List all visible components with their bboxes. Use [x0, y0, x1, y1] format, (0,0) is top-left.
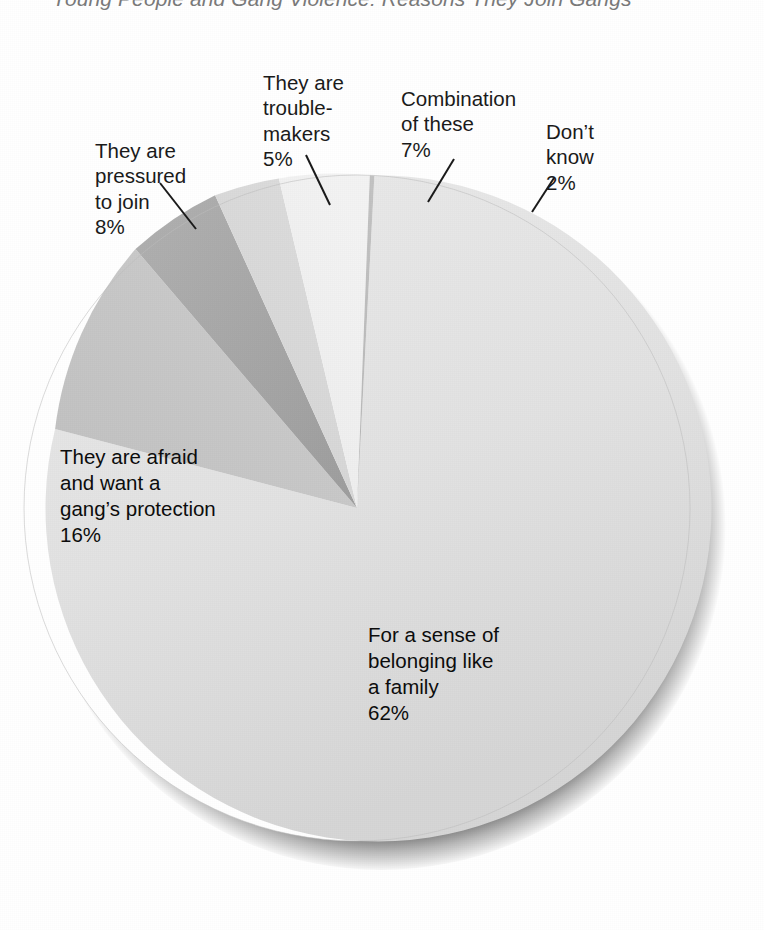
slice-label-combination-percent: 7%: [401, 137, 516, 163]
slice-label-pressured-percent: 8%: [95, 214, 186, 240]
slice-label-afraid-percent: 16%: [60, 523, 101, 546]
pie-chart-page: Young People and Gang Violence: Reasons …: [0, 0, 764, 930]
slice-label-dontknow-percent: 2%: [546, 170, 594, 196]
slice-label-belonging-text: For a sense of belonging like a family: [368, 623, 499, 698]
slice-label-troublemakers: They are trouble- makers 5%: [263, 44, 344, 197]
slice-label-afraid-text: They are afraid and want a gang’s protec…: [60, 445, 216, 520]
slice-label-pressured: They are pressured to join 8%: [95, 112, 186, 265]
slice-label-troublemakers-percent: 5%: [263, 146, 344, 172]
slice-label-dontknow-text: Don’t know: [546, 120, 594, 169]
slice-label-belonging: For a sense of belonging like a family 6…: [368, 596, 499, 726]
slice-label-belonging-percent: 62%: [368, 701, 409, 724]
slice-label-combination-text: Combination of these: [401, 87, 516, 136]
slice-label-afraid: They are afraid and want a gang’s protec…: [60, 418, 216, 548]
slice-label-troublemakers-text: They are trouble- makers: [263, 71, 344, 145]
slice-label-dontknow: Don’t know 2%: [546, 93, 594, 221]
slice-label-pressured-text: They are pressured to join: [95, 139, 186, 213]
slice-label-combination: Combination of these 7%: [401, 60, 516, 188]
